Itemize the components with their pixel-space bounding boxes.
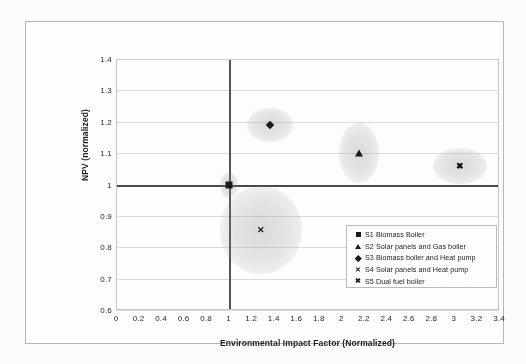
legend-item-s4: ✕S4 Solar panels and Heat pump [351, 264, 492, 276]
x-tick-label: 2.2 [358, 314, 370, 323]
x-tick-label: 2 [339, 314, 344, 323]
y-tick-label: 0.7 [78, 274, 112, 283]
y-tick-label: 0.8 [78, 243, 112, 252]
x-tick-label: 2.6 [403, 314, 415, 323]
chart-outer-frame: NPV (normalized) 1.41.31.21.110.90.80.70… [25, 21, 504, 344]
x-tick-label: 3 [452, 314, 457, 323]
x-tick-label: 0.2 [133, 314, 145, 323]
y-tick-label: 1.1 [78, 149, 112, 158]
y-tick-label: 0.9 [78, 211, 112, 220]
y-tick-label: 1 [78, 180, 112, 189]
legend-item-s1: S1 Biomass Boiler [351, 229, 492, 241]
legend-item-s3: S3 Biomass boiler and Heat pump [351, 252, 492, 264]
x-tick-label: 1.6 [290, 314, 302, 323]
legend-label: S4 Solar panels and Heat pump [365, 265, 468, 274]
chart-figure: NPV (normalized) 1.41.31.21.110.90.80.70… [0, 0, 526, 364]
gridline-horizontal [116, 310, 499, 311]
x-tick-label: 1.4 [268, 314, 280, 323]
y-tick-label: 1.4 [78, 55, 112, 64]
x-tick-label: 0.4 [155, 314, 167, 323]
y-tick-label: 1.2 [78, 117, 112, 126]
x-tick-label: 3.4 [493, 314, 505, 323]
legend-item-s2: S2 Solar panels and Gas boiler [351, 241, 492, 253]
legend-marker-x-bold-icon: ✖ [351, 276, 365, 287]
x-tick-label: 2.4 [380, 314, 392, 323]
legend-marker-square-icon [351, 229, 365, 240]
legend-marker-triangle-icon [351, 241, 365, 252]
chart-legend: S1 Biomass BoilerS2 Solar panels and Gas… [346, 225, 497, 288]
x-tick-label: 1 [226, 314, 231, 323]
legend-item-s5: ✖S5 Dual fuel boiler [351, 275, 492, 287]
x-axis-ticks: 00.20.40.60.811.21.41.61.822.22.42.62.83… [116, 312, 499, 328]
y-tick-label: 1.3 [78, 86, 112, 95]
legend-marker-x-icon: ✕ [351, 264, 365, 275]
y-tick-label: 0.6 [78, 306, 112, 315]
x-tick-label: 0.8 [200, 314, 212, 323]
legend-label: S2 Solar panels and Gas boiler [365, 242, 466, 251]
x-tick-label: 1.8 [313, 314, 325, 323]
y-axis-ticks: 1.41.31.21.110.90.80.70.6 [74, 59, 112, 310]
x-tick-label: 3.2 [471, 314, 483, 323]
x-tick-label: 0 [114, 314, 119, 323]
legend-label: S1 Biomass Boiler [365, 230, 425, 239]
legend-label: S3 Biomass boiler and Heat pump [365, 253, 476, 262]
legend-marker-diamond-icon [351, 252, 365, 263]
x-axis-label: Environmental Impact Factor (Normalized) [116, 338, 499, 348]
x-tick-label: 1.2 [245, 314, 257, 323]
legend-label: S5 Dual fuel boiler [365, 277, 425, 286]
x-tick-label: 2.8 [426, 314, 438, 323]
x-tick-label: 0.6 [178, 314, 190, 323]
